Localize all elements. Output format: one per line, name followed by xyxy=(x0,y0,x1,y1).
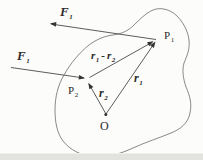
force-f1-at-p2-line xyxy=(11,68,84,79)
point-p2-subscript: 2 xyxy=(75,92,79,99)
force-f1-at-p2-arrowhead xyxy=(79,75,86,80)
vector-r1-subscript: 1 xyxy=(139,80,143,87)
scan-bottom-edge-shadow xyxy=(0,153,203,160)
origin-label: O xyxy=(100,120,109,132)
diagram-canvas xyxy=(0,0,203,160)
force-f1-at-p2-base: F xyxy=(17,48,26,63)
force-f1-at-p1-subscript: 1 xyxy=(69,14,73,21)
vector-r1-minus-r2-subscript1: 1 xyxy=(96,57,100,64)
vector-r1-minus-r2-base1: r xyxy=(91,49,95,61)
point-p2-base: P xyxy=(68,84,74,96)
vector-r1-label: r1 xyxy=(134,72,143,84)
point-p2-label: P2 xyxy=(68,85,78,96)
vector-r2-subscript: 2 xyxy=(104,95,108,102)
vector-r2-label: r2 xyxy=(99,87,108,99)
rigid-body-torque-figure: F1 F1 P1 P2 O r1 r2 r1-r2 xyxy=(0,0,203,160)
point-p1-base: P xyxy=(164,29,170,41)
vector-r1-minus-r2-label: r1-r2 xyxy=(91,50,115,61)
force-f1-at-p1-label: F1 xyxy=(60,5,73,18)
force-f1-at-p2-label: F1 xyxy=(17,49,30,62)
point-p1-subscript: 1 xyxy=(171,37,175,44)
vector-r1-minus-r2-subscript2: 2 xyxy=(112,57,116,64)
force-f1-at-p1-base: F xyxy=(60,4,69,19)
vector-r1-base: r xyxy=(134,71,139,85)
vector-r1-minus-r2-base2: r xyxy=(107,49,111,61)
vector-r1-minus-r2-minus-sign: - xyxy=(101,50,105,61)
vector-r2-base: r xyxy=(99,86,104,100)
point-p1-label: P1 xyxy=(164,30,174,41)
vector-r2-arrowhead xyxy=(86,82,93,90)
force-f1-at-p1-arrowhead xyxy=(50,21,57,26)
force-f1-at-p2-subscript: 1 xyxy=(26,58,30,65)
origin-point xyxy=(104,113,107,116)
vector-r1-arrowhead xyxy=(150,40,157,48)
